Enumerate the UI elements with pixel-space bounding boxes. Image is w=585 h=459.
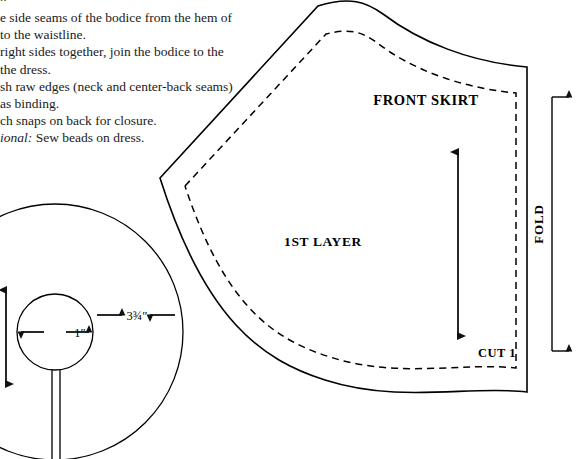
- inner-diameter-label: 1″: [74, 326, 85, 340]
- skirt-outline: [160, 1, 527, 393]
- front-skirt-piece-group: FRONT SKIRT 1ST LAYER CUT 1 FOLD: [160, 1, 569, 393]
- pattern-diagram: FRONT SKIRT 1ST LAYER CUT 1 FOLD: [0, 0, 585, 459]
- cut-1-label: CUT 1: [478, 346, 516, 360]
- ring-width-label: 3¾″: [127, 309, 148, 323]
- fold-label: FOLD: [531, 204, 546, 243]
- circle-slit: [52, 370, 60, 459]
- circular-piece-group: 1″ 3¾″: [0, 204, 183, 459]
- pattern-page: g. e side seams of the bodice from the h…: [0, 0, 585, 459]
- fold-bracket: [552, 97, 569, 351]
- first-layer-label: 1ST LAYER: [284, 234, 362, 249]
- skirt-seam-line: [185, 31, 516, 368]
- front-skirt-label: FRONT SKIRT: [373, 92, 478, 108]
